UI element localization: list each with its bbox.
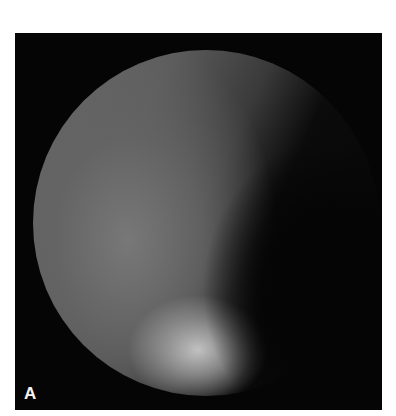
figure-panel: A [15, 33, 382, 410]
panel-label: A [24, 385, 36, 402]
circular-image-view [33, 50, 379, 396]
